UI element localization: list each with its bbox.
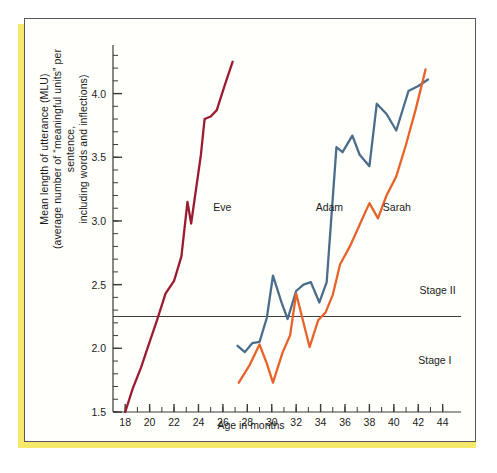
y-axis-label-line-2: (average number of “meaningful units” pe… <box>51 34 77 264</box>
annotation-eve: Eve <box>213 201 231 213</box>
x-axis-label: Age in months <box>25 419 477 431</box>
y-axis-label-line-3: including words and inflections) <box>77 34 90 264</box>
annotation-stage-i: Stage I <box>418 354 451 366</box>
y-axis-tick-label: 4.0 <box>91 88 106 100</box>
line-chart: 1.52.02.53.03.54.01820222426283032343638… <box>25 19 477 443</box>
y-axis-label-line-1: Mean length of utterance (MLU) <box>38 34 51 264</box>
y-axis-tick-label: 1.5 <box>91 406 106 418</box>
series-line-adam <box>238 80 428 353</box>
annotation-stage-ii: Stage II <box>419 284 455 296</box>
chart-frame: 1.52.02.53.03.54.01820222426283032343638… <box>24 18 476 442</box>
series-line-eve <box>125 62 232 412</box>
y-axis-tick-label: 3.5 <box>91 151 106 163</box>
series-line-sarah <box>239 69 426 382</box>
annotation-sarah: Sarah <box>383 201 411 213</box>
y-axis-tick-label: 2.0 <box>91 342 106 354</box>
figure-root: 1.52.02.53.03.54.01820222426283032343638… <box>0 0 497 473</box>
annotation-adam: Adam <box>316 201 344 213</box>
y-axis-tick-label: 3.0 <box>91 215 106 227</box>
y-axis-label: Mean length of utterance (MLU) (average … <box>38 34 90 264</box>
y-axis-tick-label: 2.5 <box>91 279 106 291</box>
